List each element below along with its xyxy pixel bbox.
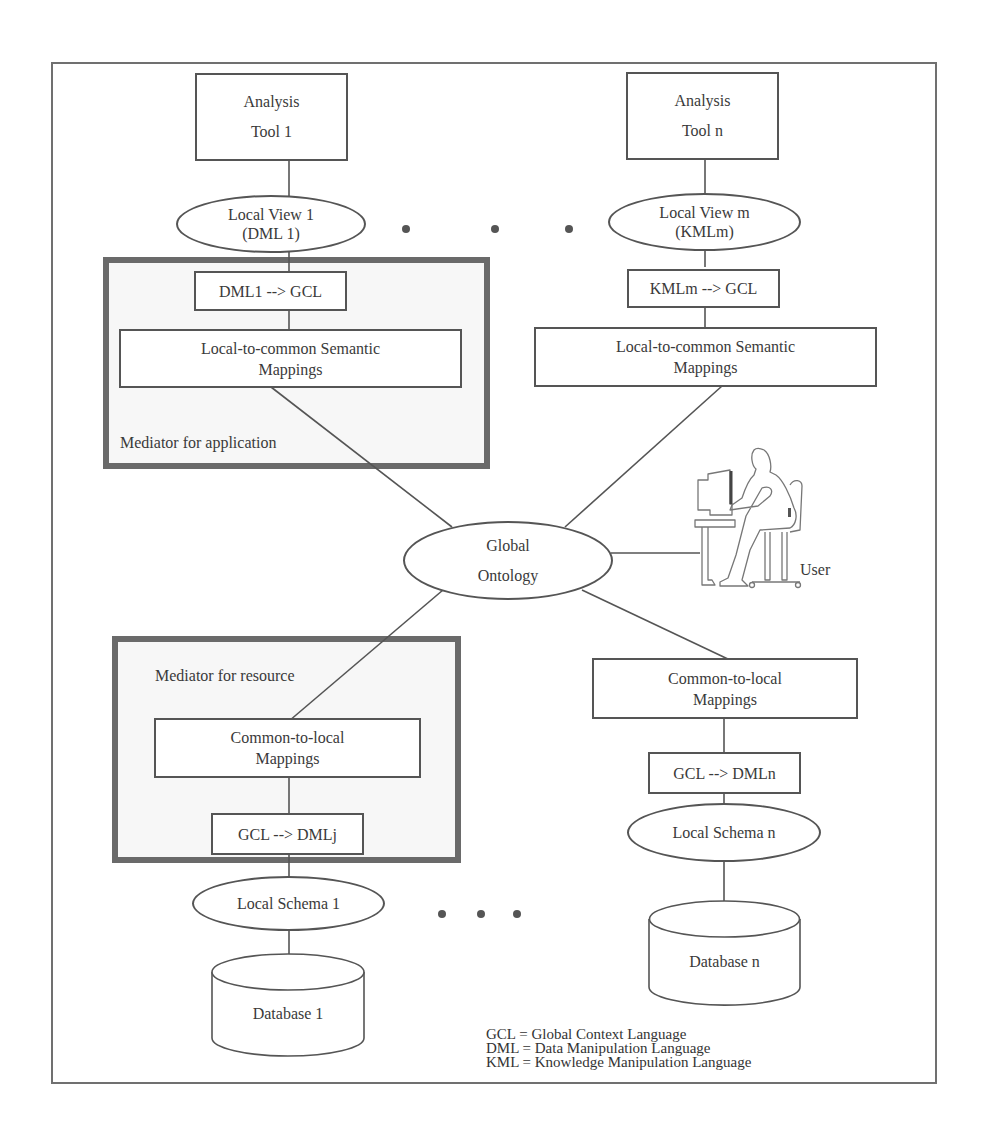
user-at-computer-icon [690,440,810,590]
local-to-common-left-line1: Local-to-common Semantic [201,338,380,359]
global-ontology-line1: Global [486,531,530,561]
database-1-label: Database 1 [210,1005,366,1023]
legend: GCL = Global Context Language DML = Data… [486,1027,751,1069]
local-schema-n-ellipse: Local Schema n [627,803,821,862]
analysis-tool-1-line1: Analysis [244,87,300,117]
ellipsis-dot [513,910,521,918]
database-1-cylinder: Database 1 [210,950,366,1060]
translator-kmlm-gcl-label: KMLm --> GCL [650,278,758,299]
legend-kml: KML = Knowledge Manipulation Language [486,1055,751,1069]
common-to-local-mappings-right-box: Common-to-local Mappings [592,658,858,719]
local-to-common-left-line2: Mappings [259,359,323,380]
translator-gcl-dmlj-box: GCL --> DMLj [211,813,364,855]
global-ontology-line2: Ontology [478,561,538,591]
common-to-local-left-line2: Mappings [256,748,320,769]
ellipsis-dot [402,225,410,233]
local-schema-1-label: Local Schema 1 [237,894,340,913]
legend-gcl: GCL = Global Context Language [486,1027,751,1041]
common-to-local-left-line1: Common-to-local [231,727,345,748]
local-view-m-line1: Local View m [659,203,749,222]
local-view-1-ellipse: Local View 1 (DML 1) [176,195,366,253]
local-to-common-right-line2: Mappings [674,357,738,378]
analysis-tool-n-line1: Analysis [675,86,731,116]
local-view-m-line2: (KMLm) [675,222,734,241]
analysis-tool-1-line2: Tool 1 [251,117,292,147]
local-view-1-line1: Local View 1 [228,205,314,224]
local-schema-n-label: Local Schema n [672,823,775,842]
translator-kmlm-gcl-box: KMLm --> GCL [627,269,780,308]
common-to-local-right-line2: Mappings [693,689,757,710]
local-to-common-mappings-left-box: Local-to-common Semantic Mappings [119,329,462,388]
analysis-tool-n-box: Analysis Tool n [626,72,779,160]
global-ontology-ellipse: Global Ontology [403,521,613,600]
mediator-application-label: Mediator for application [120,434,276,452]
local-to-common-mappings-right-box: Local-to-common Semantic Mappings [534,327,877,387]
user-label: User [800,561,830,579]
ellipsis-dot [477,910,485,918]
translator-dml1-gcl-label: DML1 --> GCL [219,281,322,302]
ellipsis-dot [565,225,573,233]
translator-dml1-gcl-box: DML1 --> GCL [194,271,347,311]
mediator-resource-label: Mediator for resource [155,667,295,685]
local-view-m-ellipse: Local View m (KMLm) [608,193,801,251]
database-n-cylinder: Database n [647,897,802,1009]
translator-gcl-dmln-box: GCL --> DMLn [648,752,801,794]
local-schema-1-ellipse: Local Schema 1 [192,876,385,931]
ellipsis-dot [491,225,499,233]
common-to-local-right-line1: Common-to-local [668,668,782,689]
translator-gcl-dmlj-label: GCL --> DMLj [238,824,337,845]
analysis-tool-1-box: Analysis Tool 1 [195,73,348,161]
analysis-tool-n-line2: Tool n [682,116,723,146]
database-n-label: Database n [647,953,802,971]
local-to-common-right-line1: Local-to-common Semantic [616,336,795,357]
ellipsis-dot [438,910,446,918]
common-to-local-mappings-left-box: Common-to-local Mappings [154,718,421,778]
translator-gcl-dmln-label: GCL --> DMLn [673,763,776,784]
legend-dml: DML = Data Manipulation Language [486,1041,751,1055]
local-view-1-line2: (DML 1) [242,224,300,243]
